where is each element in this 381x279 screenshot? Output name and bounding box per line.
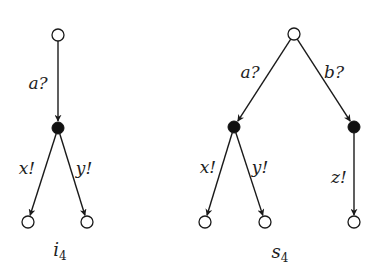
tree-caption-subscript: 4: [59, 249, 67, 263]
open-state-node: [288, 28, 300, 40]
filled-state-node: [52, 122, 64, 134]
open-state-node: [348, 216, 360, 228]
edge-label: x!: [200, 157, 216, 177]
edge-label: z!: [330, 167, 347, 187]
edge-label: x!: [19, 158, 35, 178]
open-state-node: [22, 216, 34, 228]
tree-caption-i4: i4: [53, 239, 67, 263]
edge-label: b?: [324, 62, 345, 82]
tree-caption-s4: s4: [272, 241, 289, 265]
edge-label: a?: [28, 73, 48, 93]
labels-layer: a?x!y!i4a?b?x!y!z!s4: [19, 62, 347, 265]
open-state-node: [259, 216, 271, 228]
filled-state-node: [228, 121, 240, 133]
edge-label: y!: [75, 158, 92, 178]
diagram-canvas: a?x!y!i4a?b?x!y!z!s4: [0, 0, 381, 279]
open-state-node: [81, 216, 93, 228]
filled-state-node: [348, 121, 360, 133]
edge-label: a?: [240, 62, 260, 82]
tree-caption-subscript: 4: [281, 251, 289, 265]
open-state-node: [52, 29, 64, 41]
open-state-node: [199, 216, 211, 228]
edges-layer: [30, 39, 354, 215]
tree-caption-name: s: [272, 241, 281, 262]
edge-label: y!: [251, 157, 268, 177]
